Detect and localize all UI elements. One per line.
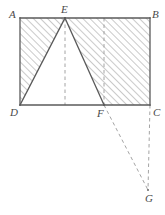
vertex-label-B: B (152, 9, 159, 20)
vertex-dot-E (64, 17, 66, 19)
segment-CG (148, 105, 150, 190)
vertex-dot-F (103, 104, 105, 106)
vertex-label-C: C (153, 107, 160, 118)
vertex-label-D: D (10, 107, 18, 118)
vertex-dot-G (147, 189, 149, 191)
vertex-label-A: A (9, 9, 16, 20)
segment-FG (104, 105, 148, 190)
vertex-label-G: G (145, 193, 153, 204)
vertex-label-F: F (97, 108, 104, 119)
vertex-label-E: E (61, 4, 68, 15)
geometry-figure (0, 0, 165, 215)
